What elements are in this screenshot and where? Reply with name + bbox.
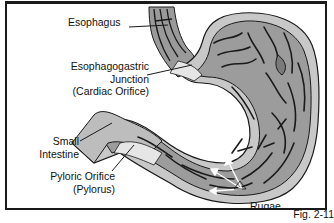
label-ej-line3: (Cardiac Orifice) bbox=[53, 85, 149, 98]
label-py-line2: (Pylorus) bbox=[43, 183, 115, 196]
label-si-line2: Intestine bbox=[35, 148, 79, 161]
label-si-line1: Small bbox=[35, 135, 79, 148]
label-esophagus: Esophagus bbox=[68, 16, 121, 29]
label-pyloric-orifice: Pyloric Orifice (Pylorus) bbox=[43, 170, 115, 195]
label-py-line1: Pyloric Orifice bbox=[43, 170, 115, 183]
label-rugae: Rugae bbox=[250, 200, 281, 210]
diagram-frame: Esophagus Esophagogastric Junction (Card… bbox=[5, 1, 327, 210]
label-small-intestine: Small Intestine bbox=[35, 135, 79, 160]
figure-caption: Fig. 2-11 bbox=[293, 208, 334, 220]
label-esophagogastric-junction: Esophagogastric Junction (Cardiac Orific… bbox=[53, 60, 149, 98]
label-ej-line1: Esophagogastric bbox=[53, 60, 149, 73]
label-ej-line2: Junction bbox=[53, 73, 149, 86]
